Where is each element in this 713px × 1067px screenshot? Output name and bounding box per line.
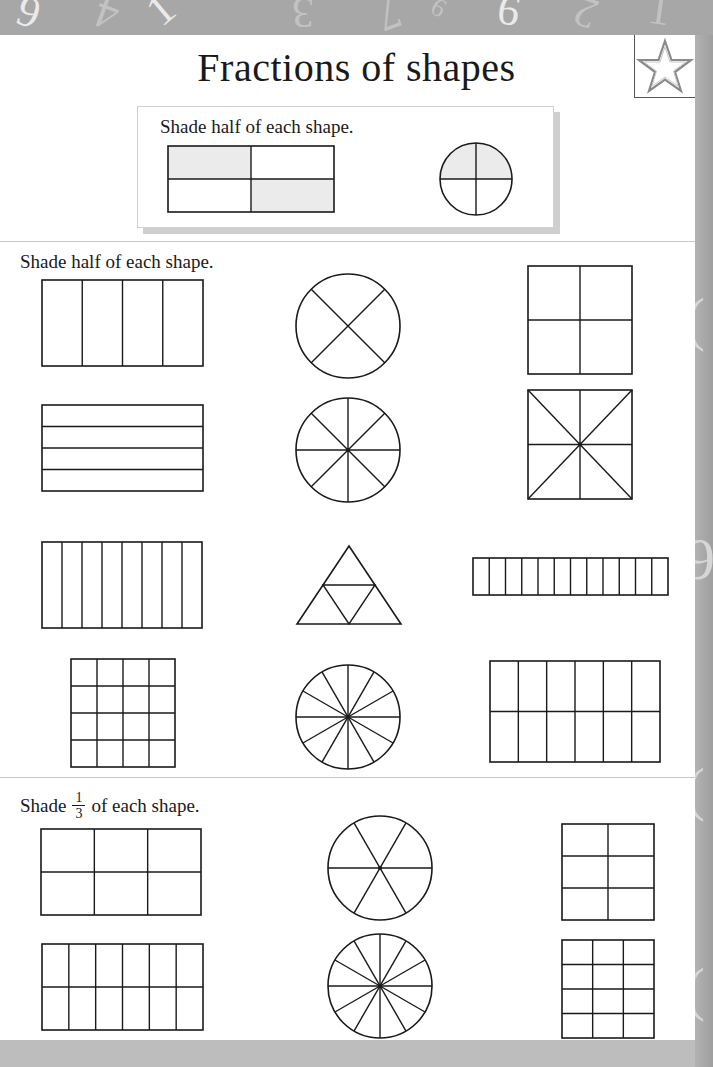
triangle-4-parts[interactable] [297,546,401,624]
strip-12-columns[interactable] [473,558,668,595]
rectangle-6x2[interactable] [490,661,660,762]
rectangle-3x2[interactable] [41,829,201,915]
example-rectangle[interactable] [168,146,334,212]
rectangle-6x2-thirds[interactable] [42,944,203,1030]
circle-12-sectors-thirds[interactable] [328,934,432,1038]
rectangle-8-columns[interactable] [42,542,202,628]
circle-4-sectors[interactable] [296,274,400,378]
grid-3x4[interactable] [562,940,654,1038]
shapes-canvas [0,0,713,1067]
rectangle-4-rows[interactable] [42,405,203,491]
grid-4x4[interactable] [71,659,175,767]
circle-12-sectors[interactable] [296,665,400,769]
grid-2x3[interactable] [562,824,654,920]
square-2x2[interactable] [528,266,632,374]
example-circle[interactable] [440,143,512,215]
circle-6-sectors[interactable] [328,816,432,920]
square-8-triangles[interactable] [528,390,632,499]
rectangle-4-columns[interactable] [42,280,203,366]
circle-8-sectors[interactable] [296,398,400,502]
